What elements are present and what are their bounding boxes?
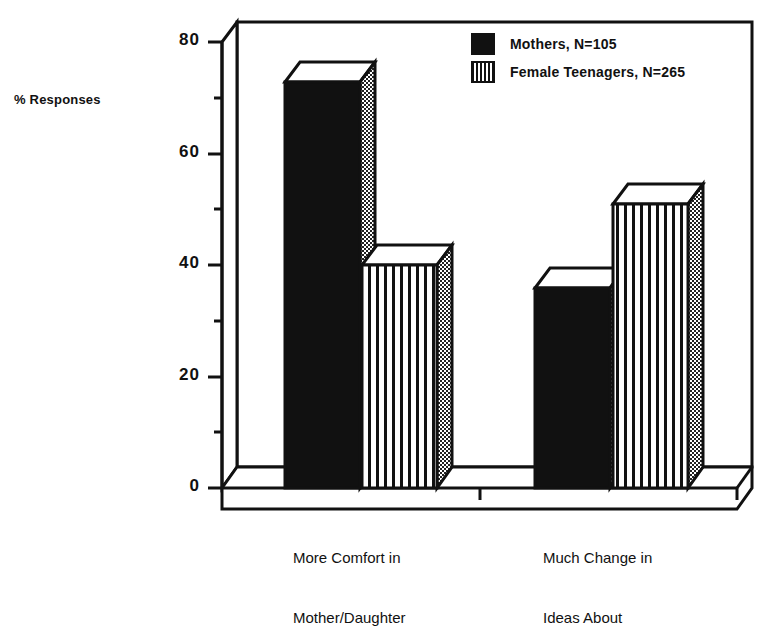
y-tick-label-40: 40 [148, 253, 200, 273]
bar-teenagers-group2 [613, 184, 703, 488]
y-tick-label-60: 60 [148, 142, 200, 162]
legend-label-teenagers: Female Teenagers, N=265 [510, 64, 685, 80]
y-tick-label-0: 0 [148, 476, 200, 496]
chart-figure: % Responses 80 60 40 20 0 Mothers, N=105… [0, 0, 778, 636]
category-1-line-2: Mother/Daughter [293, 608, 426, 628]
legend-swatch-teenagers [472, 62, 494, 82]
y-tick-label-80: 80 [148, 30, 200, 50]
legend-label-mothers: Mothers, N=105 [510, 36, 617, 52]
category-1-line-1: More Comfort in [293, 548, 426, 568]
y-tick-label-20: 20 [148, 365, 200, 385]
bar-teenagers-group1 [362, 245, 452, 488]
y-axis-title: % Responses [14, 92, 101, 107]
category-2-line-2: Ideas About [543, 608, 676, 628]
category-2-line-1: Much Change in [543, 548, 676, 568]
legend-swatch-mothers [472, 34, 494, 54]
